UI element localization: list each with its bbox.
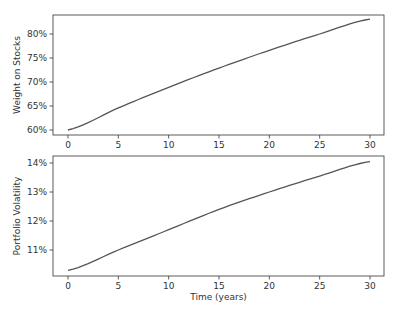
x-axis-label: Time (years) — [189, 292, 247, 302]
x-tick-label: 25 — [314, 140, 325, 150]
y-tick-label: 70% — [27, 77, 47, 87]
x-tick-label: 10 — [163, 281, 175, 291]
plot-frame — [53, 15, 384, 135]
x-tick-label: 25 — [314, 281, 325, 291]
x-tick-label: 0 — [65, 140, 71, 150]
y-tick-label: 65% — [27, 101, 47, 111]
y-tick-label: 75% — [27, 53, 47, 63]
y-tick-label: 12% — [27, 216, 47, 226]
series-line — [68, 19, 370, 130]
y-tick-label: 60% — [27, 125, 47, 135]
y-tick-label: 13% — [27, 187, 47, 197]
plot-frame — [53, 156, 384, 276]
x-tick-label: 15 — [213, 281, 224, 291]
chart-panel-weight-on-stocks: 05101520253060%65%70%75%80%Weight on Sto… — [12, 15, 384, 150]
y-tick-label: 11% — [27, 245, 47, 255]
chart-panel-portfolio-volatility: 05101520253011%12%13%14%Portfolio Volati… — [12, 156, 384, 302]
x-tick-label: 20 — [264, 281, 276, 291]
x-tick-label: 30 — [364, 140, 376, 150]
x-tick-label: 15 — [213, 140, 224, 150]
x-tick-label: 20 — [264, 140, 276, 150]
x-tick-label: 10 — [163, 140, 175, 150]
series-line — [68, 162, 370, 271]
x-tick-label: 0 — [65, 281, 71, 291]
y-axis-label: Portfolio Volatility — [12, 176, 22, 255]
x-tick-label: 5 — [115, 140, 121, 150]
x-tick-label: 5 — [115, 281, 121, 291]
chart-figure: 05101520253060%65%70%75%80%Weight on Sto… — [0, 0, 402, 316]
y-axis-label: Weight on Stocks — [12, 36, 22, 114]
x-tick-label: 30 — [364, 281, 376, 291]
y-tick-label: 80% — [27, 29, 47, 39]
y-tick-label: 14% — [27, 158, 47, 168]
